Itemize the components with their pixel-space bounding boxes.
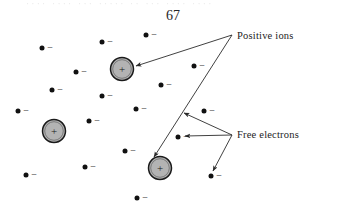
positive-ion-charge-symbol: +: [157, 162, 163, 174]
free-electron: −: [135, 192, 149, 203]
free-electron-charge-symbol: −: [166, 79, 172, 90]
free-electron-charge-symbol: −: [183, 131, 189, 142]
leader-positive-ion-bottom: [154, 35, 232, 157]
free-electron-charge-symbol: −: [81, 66, 87, 77]
free-electron-charge-symbol: −: [23, 105, 29, 116]
free-electron-charge-symbol: −: [47, 42, 53, 53]
free-electron: −: [123, 145, 137, 156]
positive-ion: +: [149, 157, 172, 180]
free-electron: −: [83, 161, 97, 172]
free-electron: −: [159, 79, 173, 90]
free-electron-charge-symbol: −: [216, 170, 222, 181]
free-electron-charge-symbol: −: [90, 161, 96, 172]
positive-ion-layer: +++: [43, 58, 172, 180]
free-electron-charge-symbol: −: [151, 29, 157, 40]
free-electron: −: [74, 66, 88, 77]
free-electron-charge-symbol: −: [57, 84, 63, 95]
free-electron-charge-symbol: −: [94, 115, 100, 126]
free-electron: −: [209, 170, 223, 181]
free-electron: −: [202, 105, 216, 116]
free-electron-charge-symbol: −: [142, 192, 148, 203]
free-electron: −: [100, 36, 114, 47]
free-electron: −: [100, 90, 114, 101]
leader-free-electron-upper: [184, 113, 232, 135]
free-electron-charge-symbol: −: [107, 36, 113, 47]
free-electron-charge-symbol: −: [107, 90, 113, 101]
positive-ion: +: [43, 120, 66, 143]
free-electron-charge-symbol: −: [31, 169, 37, 180]
page-canvas: ···· ···· ··· ····· ·· ··· ···· ···· 67 …: [0, 0, 346, 219]
free-electron-charge-symbol: −: [199, 60, 205, 71]
free-electron: −: [144, 29, 158, 40]
label-positive-ions: Positive ions: [237, 30, 294, 41]
free-electron-charge-symbol: −: [141, 103, 147, 114]
free-electron-charge-symbol: −: [130, 145, 136, 156]
free-electron: −: [50, 84, 64, 95]
diagram-svg: +++ −−−−−−−−−−−−−−−−−−: [0, 0, 346, 219]
label-free-electrons: Free electrons: [237, 129, 299, 140]
free-electron: −: [16, 105, 30, 116]
free-electron: −: [134, 103, 148, 114]
leader-line-layer: [136, 35, 232, 171]
positive-ion-charge-symbol: +: [51, 125, 57, 137]
free-electron: −: [176, 131, 190, 142]
free-electron: −: [87, 115, 101, 126]
free-electron-layer: −−−−−−−−−−−−−−−−−−: [16, 29, 223, 203]
free-electron: −: [40, 42, 54, 53]
free-electron: −: [24, 169, 38, 180]
free-electron-charge-symbol: −: [209, 105, 215, 116]
diagram-figure: +++ −−−−−−−−−−−−−−−−−−: [0, 0, 346, 219]
positive-ion: +: [111, 58, 134, 81]
free-electron: −: [192, 60, 206, 71]
leader-free-electron-middle: [185, 135, 232, 136]
positive-ion-charge-symbol: +: [119, 63, 125, 75]
leader-free-electron-lower: [213, 135, 232, 171]
